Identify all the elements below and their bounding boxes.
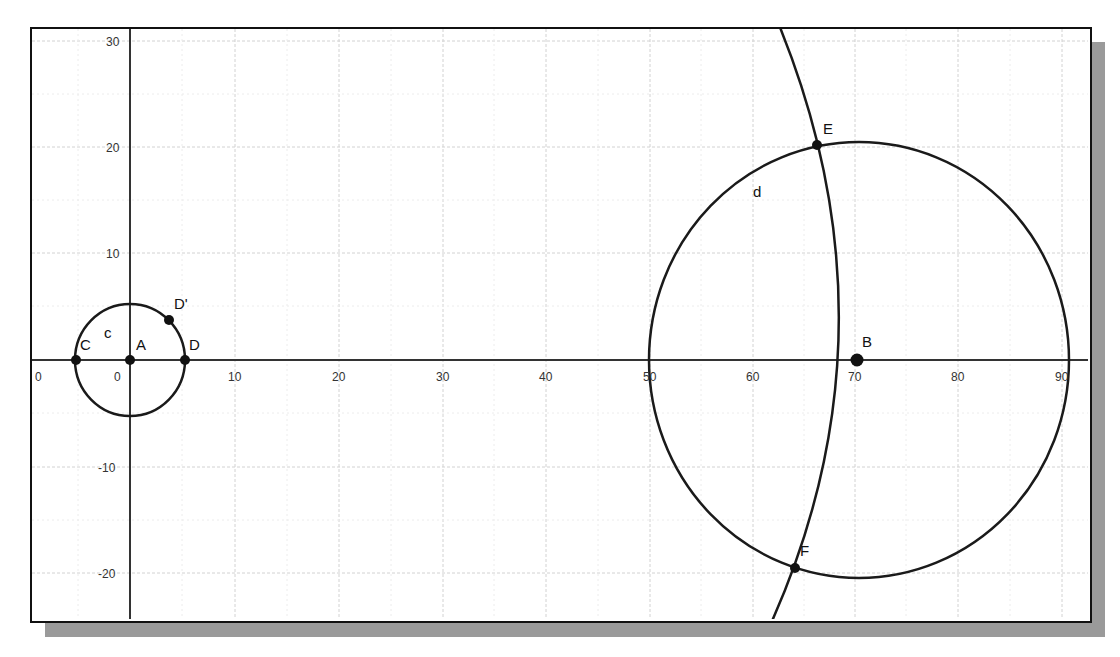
point-d[interactable] <box>180 355 190 365</box>
label-d-prime: D' <box>174 295 188 312</box>
svg-text:30: 30 <box>436 370 450 384</box>
svg-text:20: 20 <box>332 370 346 384</box>
minor-grid <box>32 29 1088 619</box>
svg-text:70: 70 <box>848 370 862 384</box>
point-c[interactable] <box>71 355 81 365</box>
svg-text:30: 30 <box>106 35 120 49</box>
point-e[interactable] <box>812 140 822 150</box>
svg-text:-20: -20 <box>98 567 116 581</box>
point-a[interactable] <box>125 355 135 365</box>
arc-through-e-f[interactable] <box>768 20 839 630</box>
svg-text:20: 20 <box>106 141 120 155</box>
point-d-prime[interactable] <box>164 315 174 325</box>
geometry-canvas[interactable]: A C D D' B E F c d 0 0 10 20 30 40 50 60… <box>0 0 1120 657</box>
label-a: A <box>136 336 146 353</box>
label-c: C <box>80 336 91 353</box>
svg-text:10: 10 <box>106 247 120 261</box>
x-tick-labels: 0 0 10 20 30 40 50 60 70 80 90 <box>35 370 1069 384</box>
label-circle-c: c <box>104 324 112 341</box>
label-e: E <box>823 120 833 137</box>
label-f: F <box>800 542 809 559</box>
label-d: D <box>189 336 200 353</box>
point-f[interactable] <box>790 563 800 573</box>
grid <box>32 29 1088 619</box>
svg-text:80: 80 <box>951 370 965 384</box>
point-b[interactable] <box>851 354 864 367</box>
svg-text:60: 60 <box>746 370 760 384</box>
svg-text:50: 50 <box>643 370 657 384</box>
svg-text:90: 90 <box>1055 370 1069 384</box>
svg-text:10: 10 <box>228 370 242 384</box>
svg-text:0: 0 <box>35 370 42 384</box>
svg-text:0: 0 <box>114 370 121 384</box>
svg-text:40: 40 <box>539 370 553 384</box>
label-b: B <box>862 333 872 350</box>
label-circle-d: d <box>753 183 761 200</box>
svg-text:-10: -10 <box>98 461 116 475</box>
